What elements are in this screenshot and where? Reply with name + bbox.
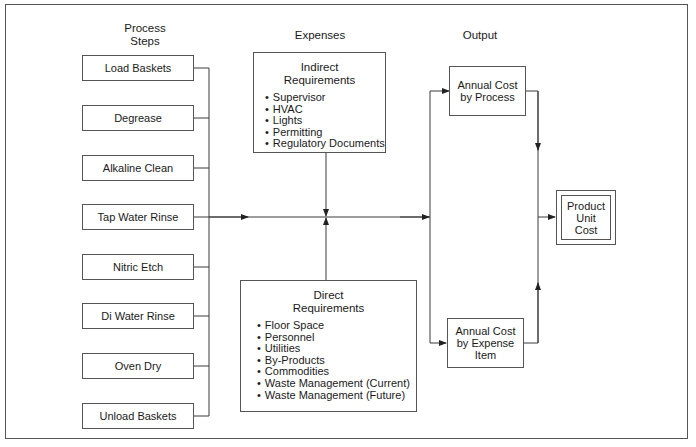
process-step-nitric-etch: Nitric Etch	[82, 254, 194, 280]
heading-expenses: Expenses	[280, 29, 360, 42]
product-unit-cost-inner: Product Unit Cost	[561, 195, 611, 240]
indirect-requirements-list: Supervisor HVAC Lights Permitting Regula…	[254, 92, 385, 150]
process-step-tap-water-rinse: Tap Water Rinse	[82, 204, 194, 230]
indirect-title-line1: Indirect	[254, 61, 385, 74]
direct-requirements-title: Direct Requirements	[241, 289, 416, 314]
heading-output: Output	[450, 29, 510, 42]
annual-cost-by-expense-line3: Item	[475, 349, 496, 361]
annual-cost-by-process-line1: Annual Cost	[458, 79, 518, 91]
product-unit-cost-line3: Cost	[575, 224, 598, 236]
direct-title-line2: Requirements	[241, 302, 416, 315]
product-unit-cost-line2: Unit	[576, 212, 596, 224]
heading-process-steps-line1: Process	[105, 22, 185, 35]
annual-cost-by-expense-item-box: Annual Cost by Expense Item	[447, 318, 524, 368]
list-item: Regulatory Documents	[265, 138, 385, 150]
list-item: Supervisor	[265, 92, 385, 104]
indirect-requirements-title: Indirect Requirements	[254, 61, 385, 86]
process-step-oven-dry: Oven Dry	[82, 353, 194, 379]
direct-requirements-box: Direct Requirements Floor Space Personne…	[240, 280, 417, 412]
product-unit-cost-line1: Product	[567, 200, 605, 212]
list-item: Floor Space	[257, 320, 416, 332]
annual-cost-by-expense-line1: Annual Cost	[456, 325, 516, 337]
process-step-unload-baskets: Unload Baskets	[82, 403, 194, 429]
process-step-alkaline-clean: Alkaline Clean	[82, 155, 194, 181]
annual-cost-by-process-box: Annual Cost by Process	[449, 66, 526, 116]
list-item: Waste Management (Future)	[257, 390, 416, 402]
direct-title-line1: Direct	[241, 289, 416, 302]
indirect-requirements-box: Indirect Requirements Supervisor HVAC Li…	[253, 52, 386, 153]
process-step-di-water-rinse: Di Water Rinse	[82, 303, 194, 329]
process-step-degrease: Degrease	[82, 105, 194, 131]
product-unit-cost-box: Product Unit Cost	[556, 190, 616, 245]
process-step-load-baskets: Load Baskets	[82, 55, 194, 81]
annual-cost-by-process-line2: by Process	[460, 91, 514, 103]
heading-process-steps: Process Steps	[105, 22, 185, 48]
annual-cost-by-expense-line2: by Expense	[457, 337, 514, 349]
heading-process-steps-line2: Steps	[105, 35, 185, 48]
list-item: Waste Management (Current)	[257, 378, 416, 390]
direct-requirements-list: Floor Space Personnel Utilities By-Produ…	[241, 320, 416, 401]
indirect-title-line2: Requirements	[254, 74, 385, 87]
